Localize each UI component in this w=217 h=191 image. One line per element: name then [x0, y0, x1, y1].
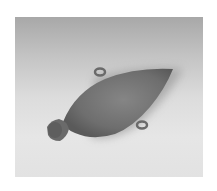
vessel-illustration — [15, 17, 203, 177]
vessel-mouth — [48, 122, 62, 138]
vessel-lug-top — [95, 69, 105, 76]
vessel-lug-bottom — [137, 122, 147, 129]
photograph — [15, 17, 203, 177]
